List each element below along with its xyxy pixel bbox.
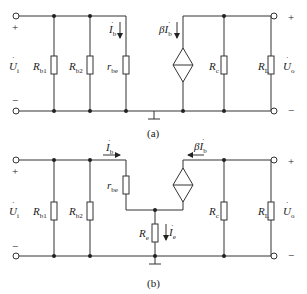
- input-terminal-minus-b: [13, 253, 19, 259]
- label-source-b: βIb: [193, 140, 207, 155]
- svg-text:·: ·: [108, 136, 111, 145]
- label-ui-a: Ui: [9, 60, 19, 75]
- svg-text:·: ·: [171, 221, 174, 230]
- output-terminal-minus-b: [271, 253, 277, 259]
- resistor-rc-b: [221, 202, 227, 220]
- input-terminal-plus-b: [13, 157, 19, 163]
- resistor-rb2-a: [87, 56, 93, 74]
- label-rb2-b: Rb2: [68, 205, 83, 220]
- resistor-re-b: [152, 224, 158, 242]
- dependent-current-source-b: [173, 168, 193, 202]
- label-rl-b: RL: [257, 205, 269, 220]
- svg-text:·: ·: [286, 198, 289, 207]
- label-uo-a: Uo: [283, 60, 295, 75]
- plus-sign-in-b: +: [12, 165, 18, 177]
- label-rl-a: RL: [257, 60, 269, 75]
- minus-sign-in-a: −: [12, 94, 18, 106]
- label-rb1-a: Rb1: [32, 60, 47, 75]
- input-terminal-minus-a: [13, 108, 19, 114]
- resistor-rbe-b: [123, 176, 129, 194]
- label-rc-b: Rc: [208, 205, 219, 220]
- svg-text:·: ·: [12, 53, 15, 62]
- svg-text:·: ·: [286, 53, 289, 62]
- minus-sign-out-a: −: [288, 104, 294, 116]
- output-terminal-plus-b: [271, 157, 277, 163]
- output-terminal-plus-a: [271, 13, 277, 19]
- minus-sign-in-b: −: [12, 240, 18, 252]
- label-ui-b: Ui: [9, 205, 19, 220]
- svg-text:·: ·: [111, 18, 114, 27]
- dependent-current-source-a: [173, 48, 193, 82]
- resistor-rb2-b: [87, 202, 93, 220]
- plus-sign-out-b: +: [288, 155, 294, 167]
- output-terminal-minus-a: [271, 108, 277, 114]
- circuit-a: + − + − Ui · Rb1 Rb2 rbe Rc RL Uo · Ib ·…: [9, 11, 295, 140]
- svg-text:·: ·: [202, 135, 205, 144]
- caption-a: (a): [147, 127, 160, 140]
- circuit-diagram: + − + − Ui · Rb1 Rb2 rbe Rc RL Uo · Ib ·…: [0, 0, 307, 294]
- circuit-b: + − + − Ui · Rb1 Rb2 rbe Re Rc RL Uo · I…: [9, 135, 295, 290]
- label-rb1-b: Rb1: [32, 205, 47, 220]
- label-rc-a: Rc: [208, 60, 219, 75]
- plus-sign-in-a: +: [12, 21, 18, 33]
- svg-text:·: ·: [12, 198, 15, 207]
- label-rbe-b: rbe: [107, 179, 118, 194]
- caption-b: (b): [147, 277, 160, 290]
- resistor-rc-a: [221, 56, 227, 74]
- plus-sign-out-a: +: [288, 11, 294, 23]
- minus-sign-out-b: −: [288, 249, 294, 261]
- svg-text:·: ·: [168, 18, 171, 27]
- label-uo-b: Uo: [283, 205, 295, 220]
- label-re-b: Re: [138, 227, 149, 242]
- resistor-rb1-a: [51, 56, 57, 74]
- label-rb2-a: Rb2: [68, 60, 83, 75]
- input-terminal-plus-a: [13, 13, 19, 19]
- resistor-rbe-a: [123, 56, 129, 74]
- label-rbe-a: rbe: [107, 60, 118, 75]
- resistor-rb1-b: [51, 202, 57, 220]
